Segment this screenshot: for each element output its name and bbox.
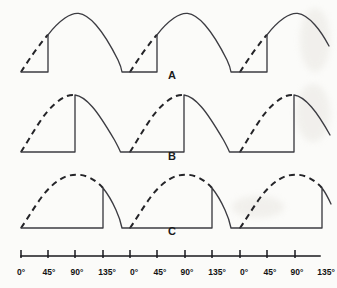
waveform-b-conducting-trace [21, 95, 130, 152]
waveform-c-conducting-trace [130, 188, 240, 228]
axis-tick-label: 135° [317, 267, 335, 277]
waveform-b-label: B [168, 150, 176, 162]
waveform-c-blocked-segment [130, 175, 212, 228]
waveform-a-conducting-trace [240, 13, 329, 72]
waveform-a-blocked-segment [130, 35, 157, 72]
waveform-a-blocked-segment [21, 35, 48, 72]
waveform-c-group: C [21, 175, 331, 237]
axis-tick-label: 45° [154, 267, 167, 277]
waveform-b-blocked-segment [240, 95, 294, 152]
waveform-a-blocked-segment [240, 35, 267, 72]
axis-tick-label: 135° [208, 267, 226, 277]
axis-tick-label: 90° [181, 267, 194, 277]
waveform-b-blocked-segment [130, 95, 184, 152]
axis-tick-label: 0° [130, 267, 139, 277]
waveform-a-conducting-trace [130, 13, 240, 72]
waveform-b-group: B [21, 95, 330, 162]
axis-tick-label: 90° [71, 267, 84, 277]
axis-tick-label: 0° [240, 267, 249, 277]
waveform-a-conducting-trace [21, 13, 130, 72]
waveform-c-blocked-segment [21, 175, 103, 228]
axis-tick-label: 45° [43, 267, 56, 277]
waveform-c-blocked-segment [240, 175, 322, 228]
waveform-c-conducting-trace [21, 188, 130, 228]
axis-tick-label: 135° [98, 267, 116, 277]
figure-canvas: A B C [0, 0, 337, 288]
waveform-a-label: A [168, 69, 176, 81]
axis-tick-label: 45° [264, 267, 277, 277]
waveform-b-blocked-segment [21, 95, 75, 152]
axis-tick-label: 0° [17, 267, 26, 277]
waveform-a-group: A [21, 13, 329, 81]
degrees-axis: 0° 45° 90° 135° 0° 45° 90° 135° 0° 45° 9… [17, 250, 335, 277]
waveform-figure: A B C [0, 0, 337, 288]
axis-tick-label: 90° [291, 267, 304, 277]
waveform-b-conducting-trace [240, 95, 330, 152]
waveform-c-label: C [168, 225, 176, 237]
waveform-b-conducting-trace [130, 95, 240, 152]
